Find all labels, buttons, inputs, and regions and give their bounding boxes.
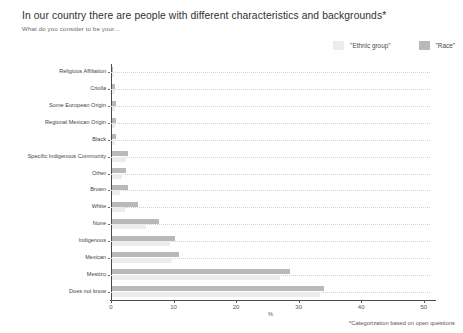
bar-ethnic-group xyxy=(112,123,115,128)
x-axis-tick xyxy=(424,300,425,303)
x-axis-tick xyxy=(111,300,112,303)
bar-ethnic-group xyxy=(112,292,320,297)
bar-race xyxy=(112,67,113,72)
bar-race xyxy=(112,185,128,190)
bar-ethnic-group xyxy=(112,224,146,229)
y-axis-tick xyxy=(108,258,110,259)
bar-race xyxy=(112,269,290,274)
bar-race xyxy=(112,286,324,291)
bar-race xyxy=(112,84,115,89)
x-axis-tick-label: 10 xyxy=(170,304,177,310)
chart-footnote: *Categorization based on open questions xyxy=(349,320,455,326)
gridline xyxy=(111,207,430,208)
y-axis-tick xyxy=(108,174,110,175)
x-axis-line xyxy=(110,300,436,301)
x-axis-tick-label: 0 xyxy=(109,304,112,310)
y-axis-line xyxy=(111,64,112,300)
x-axis-tick-label: 50 xyxy=(420,304,427,310)
legend-swatch-ethnic xyxy=(333,41,344,50)
bar-ethnic-group xyxy=(112,72,114,77)
y-axis-tick xyxy=(108,123,110,124)
bar-race xyxy=(112,168,126,173)
bar-race xyxy=(112,202,138,207)
y-axis-label: Religious Affiliation xyxy=(59,69,106,75)
bar-ethnic-group xyxy=(112,207,125,212)
y-axis-tick xyxy=(108,275,110,276)
y-axis-label: Brown xyxy=(90,187,106,193)
x-axis-tick xyxy=(361,300,362,303)
legend-swatch-race xyxy=(419,41,430,50)
bar-ethnic-group xyxy=(112,275,280,280)
y-axis-tick xyxy=(108,190,110,191)
bar-race xyxy=(112,151,128,156)
plot-area: Religious AffiliationCriollaSome Europea… xyxy=(111,64,430,300)
bar-ethnic-group xyxy=(112,241,170,246)
bar-race xyxy=(112,219,159,224)
chart-subtitle: What do you consider to be your... xyxy=(22,25,455,32)
gridline xyxy=(111,123,430,124)
x-axis-title: % xyxy=(268,311,273,317)
x-axis-tick-label: 30 xyxy=(295,304,302,310)
y-axis-label: None xyxy=(93,221,106,227)
gridline xyxy=(111,72,430,73)
x-axis-tick xyxy=(174,300,175,303)
x-axis-tick xyxy=(236,300,237,303)
bar-ethnic-group xyxy=(112,140,115,145)
bar-ethnic-group xyxy=(112,157,126,162)
gridline xyxy=(111,140,430,141)
legend-item[interactable]: "Ethnic group" xyxy=(333,41,390,50)
y-axis-label: Indigenous xyxy=(79,238,106,244)
y-axis-tick xyxy=(108,224,110,225)
y-axis-label: Other xyxy=(92,171,106,177)
gridline xyxy=(111,157,430,158)
gridline xyxy=(111,89,430,90)
y-axis-tick xyxy=(108,157,110,158)
y-axis-tick xyxy=(108,89,110,90)
bar-race xyxy=(112,101,116,106)
bar-race xyxy=(112,252,179,257)
y-axis-label: Specific Indigenous Community xyxy=(28,154,106,160)
chart-title: In our country there are people with dif… xyxy=(22,10,455,21)
bar-ethnic-group xyxy=(112,174,122,179)
bar-ethnic-group xyxy=(112,89,115,94)
y-axis-label: Criolla xyxy=(90,86,106,92)
y-axis-label: White xyxy=(92,204,106,210)
gridline xyxy=(111,106,430,107)
chart-header: In our country there are people with dif… xyxy=(22,10,455,32)
chart-legend: "Ethnic group""Race" xyxy=(333,41,455,50)
legend-item-label: "Race" xyxy=(436,42,455,49)
y-axis-label: Mestizo xyxy=(87,272,106,278)
y-axis-label: Some European Origin xyxy=(49,103,106,109)
y-axis-tick xyxy=(108,207,110,208)
y-axis-tick xyxy=(108,72,110,73)
y-axis-label: Mexican xyxy=(85,255,106,261)
bar-ethnic-group xyxy=(112,258,172,263)
bar-ethnic-group xyxy=(112,106,115,111)
legend-item[interactable]: "Race" xyxy=(419,41,455,50)
bar-race xyxy=(112,118,116,123)
legend-item-label: "Ethnic group" xyxy=(350,42,390,49)
y-axis-tick xyxy=(108,292,110,293)
y-axis-label: Does not know xyxy=(69,289,106,295)
gridline xyxy=(111,174,430,175)
gridline xyxy=(111,190,430,191)
bar-race xyxy=(112,134,116,139)
y-axis-tick xyxy=(108,241,110,242)
y-axis-label: Regional Mexican Origin xyxy=(45,120,106,126)
bar-race xyxy=(112,236,175,241)
x-axis-tick-label: 40 xyxy=(358,304,365,310)
y-axis-label: Black xyxy=(92,137,106,143)
gridline xyxy=(111,224,430,225)
x-axis-tick xyxy=(299,300,300,303)
x-axis-tick-label: 20 xyxy=(233,304,240,310)
bar-ethnic-group xyxy=(112,190,120,195)
y-axis-tick xyxy=(108,140,110,141)
y-axis-tick xyxy=(108,106,110,107)
